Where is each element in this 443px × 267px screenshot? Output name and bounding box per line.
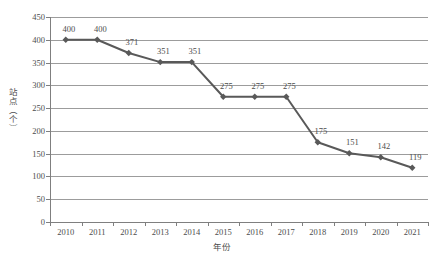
- y-tick-label: 0: [18, 218, 45, 227]
- gridline: [50, 131, 428, 132]
- x-axis-title: 年份: [0, 243, 443, 252]
- y-axis-line: [50, 17, 51, 223]
- x-tick-label: 2010: [49, 228, 83, 237]
- gridline: [50, 176, 428, 177]
- y-tick-label: 350: [18, 59, 45, 68]
- data-label: 371: [117, 38, 147, 47]
- x-tick-label: 2015: [206, 228, 240, 237]
- y-tick-mark: [46, 40, 50, 41]
- x-tick-mark: [271, 222, 272, 226]
- data-point-marker: [283, 94, 289, 100]
- x-tick-label: 2013: [143, 228, 177, 237]
- y-tick-label: 300: [18, 81, 45, 90]
- line-chart: 050100150200250300350400450 站点（个） 201020…: [0, 0, 443, 267]
- x-tick-mark: [50, 222, 51, 226]
- data-point-marker: [315, 139, 321, 145]
- x-tick-mark: [176, 222, 177, 226]
- gridline: [50, 199, 428, 200]
- data-point-marker: [220, 94, 226, 100]
- series-polyline: [66, 40, 413, 168]
- data-point-marker: [126, 50, 132, 56]
- x-tick-label: 2016: [238, 228, 272, 237]
- x-tick-label: 2020: [364, 228, 398, 237]
- y-tick-label: 450: [18, 13, 45, 22]
- x-tick-mark: [365, 222, 366, 226]
- x-tick-label: 2011: [80, 228, 114, 237]
- x-tick-label: 2012: [112, 228, 146, 237]
- y-tick-label: 150: [18, 150, 45, 159]
- x-tick-label: 2018: [301, 228, 335, 237]
- data-label: 400: [54, 25, 84, 34]
- x-tick-label: 2017: [269, 228, 303, 237]
- x-tick-mark: [397, 222, 398, 226]
- x-tick-mark: [428, 222, 429, 226]
- data-label: 275: [211, 82, 241, 91]
- data-label: 400: [85, 25, 115, 34]
- data-point-marker: [252, 94, 258, 100]
- x-tick-label: 2014: [175, 228, 209, 237]
- x-tick-mark: [334, 222, 335, 226]
- y-tick-label: 100: [18, 172, 45, 181]
- gridline: [50, 154, 428, 155]
- data-label: 275: [274, 82, 304, 91]
- y-tick-mark: [46, 85, 50, 86]
- data-point-marker: [378, 154, 384, 160]
- x-tick-label: 2019: [332, 228, 366, 237]
- data-label: 275: [243, 82, 273, 91]
- data-label: 151: [337, 138, 367, 147]
- data-label: 119: [400, 153, 430, 162]
- x-tick-label: 2021: [395, 228, 429, 237]
- data-label: 142: [369, 142, 399, 151]
- y-tick-mark: [46, 176, 50, 177]
- data-label: 175: [306, 127, 336, 136]
- y-tick-label: 400: [18, 36, 45, 45]
- data-label: 351: [148, 47, 178, 56]
- y-tick-label: 250: [18, 104, 45, 113]
- data-point-marker: [409, 165, 415, 171]
- y-tick-mark: [46, 108, 50, 109]
- x-tick-mark: [82, 222, 83, 226]
- y-tick-label: 50: [18, 195, 45, 204]
- gridline: [50, 108, 428, 109]
- y-tick-mark: [46, 131, 50, 132]
- x-tick-mark: [239, 222, 240, 226]
- x-tick-mark: [302, 222, 303, 226]
- y-tick-mark: [46, 199, 50, 200]
- x-tick-mark: [208, 222, 209, 226]
- y-tick-mark: [46, 63, 50, 64]
- y-tick-mark: [46, 17, 50, 18]
- x-tick-mark: [113, 222, 114, 226]
- y-tick-label: 200: [18, 127, 45, 136]
- gridline: [50, 17, 428, 18]
- data-label: 351: [180, 47, 210, 56]
- x-tick-mark: [145, 222, 146, 226]
- y-axis-title: 站点（个）: [2, 88, 16, 133]
- y-tick-mark: [46, 154, 50, 155]
- gridline: [50, 40, 428, 41]
- gridline: [50, 63, 428, 64]
